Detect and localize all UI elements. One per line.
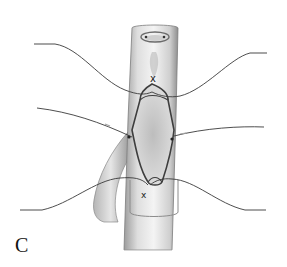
knot-top: x bbox=[150, 73, 156, 84]
suture-middle-left bbox=[37, 108, 132, 137]
knot-bottom: x bbox=[141, 190, 147, 200]
branch-vessel bbox=[93, 132, 128, 222]
suture-middle-right bbox=[174, 127, 264, 136]
panel-label: C bbox=[15, 234, 28, 257]
surgical-illustration: x x bbox=[0, 0, 287, 267]
